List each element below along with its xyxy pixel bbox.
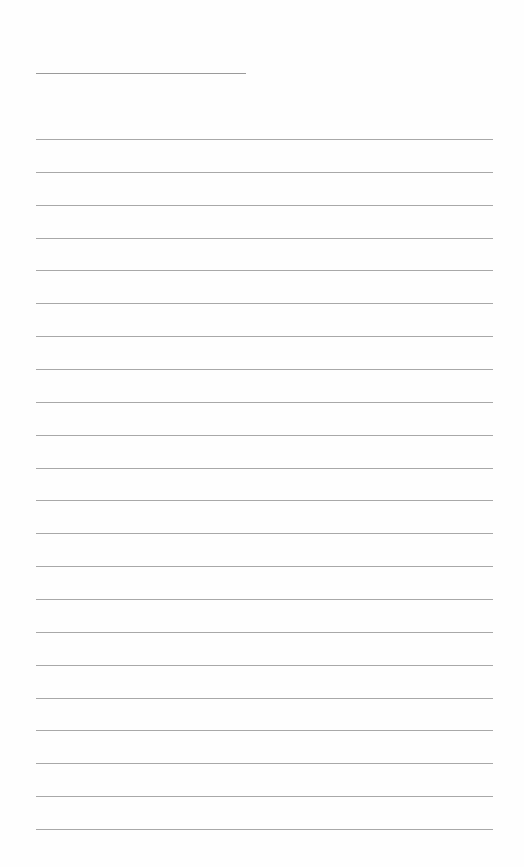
ruled-line [36, 336, 493, 337]
ruled-line [36, 599, 493, 600]
ruled-line [36, 172, 493, 173]
ruled-line [36, 303, 493, 304]
ruled-line [36, 270, 493, 271]
ruled-line [36, 468, 493, 469]
ruled-line [36, 730, 493, 731]
ruled-line [36, 402, 493, 403]
ruled-line [36, 435, 493, 436]
ruled-line [36, 796, 493, 797]
lined-paper-sheet [0, 0, 524, 867]
ruled-line [36, 665, 493, 666]
ruled-line [36, 139, 493, 140]
ruled-lines-area [36, 0, 493, 867]
ruled-line [36, 632, 493, 633]
ruled-line [36, 500, 493, 501]
ruled-line [36, 369, 493, 370]
ruled-line [36, 566, 493, 567]
ruled-line [36, 205, 493, 206]
ruled-line [36, 533, 493, 534]
ruled-line [36, 763, 493, 764]
ruled-line [36, 829, 493, 830]
ruled-line [36, 238, 493, 239]
ruled-line [36, 698, 493, 699]
